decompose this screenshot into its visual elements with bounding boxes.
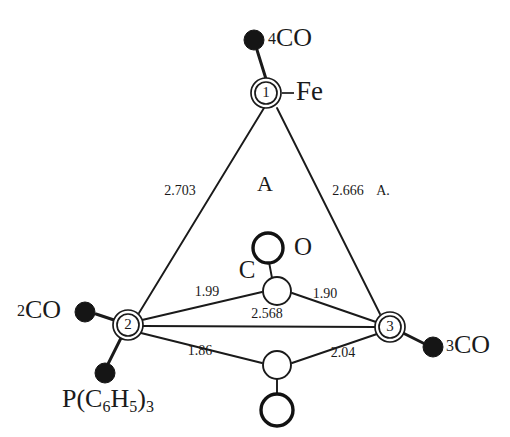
metal-vertex-2: 2 <box>113 310 143 340</box>
atom-co-3 <box>423 337 443 357</box>
bond-fe3-co3 <box>403 333 423 343</box>
metal-vertex-1: 1 <box>251 78 281 108</box>
iron-element-label-group: Fe <box>282 76 323 106</box>
co-2-group: CO <box>25 295 61 324</box>
iron-element-label: Fe <box>296 76 323 106</box>
bridging-atoms <box>253 233 293 426</box>
vertex-2-number: 2 <box>124 316 132 332</box>
bond-fe2-co2 <box>96 314 114 320</box>
bond-fe1-fe3 <box>277 108 380 314</box>
ligand-label-co-4: 4CO <box>268 23 312 52</box>
lower-bridge-bonds <box>141 333 377 396</box>
phosphine-sub-6: 6 <box>102 398 110 415</box>
phosphine-close-paren: ) <box>137 384 146 413</box>
distance-fe2-bridge-c-upper: 1.99 <box>195 284 220 299</box>
structure-canvas: 1 2 3 Fe 4CO 2CO 3CO <box>0 0 510 437</box>
atom-bridge-oxygen-upper <box>253 233 283 263</box>
metal-vertex-3: 3 <box>375 312 405 342</box>
distance-fe3-bridge-c-lower: 2.04 <box>331 345 356 360</box>
distance-unit-note: A. <box>376 183 390 198</box>
atom-co-2 <box>75 302 95 322</box>
phosphine-sub-5: 5 <box>129 398 137 415</box>
bridge-carbon-upper-label: C <box>239 256 256 283</box>
atom-phosphorus <box>95 363 115 383</box>
distance-labels: 2.703 2.666 A. 2.568 1.99 1.90 1.86 2.04 <box>164 183 390 360</box>
co-2-count: 2 <box>17 302 25 319</box>
ligand-label-co-3: 3CO <box>446 330 490 359</box>
bond-fe2-phosphine <box>108 338 121 364</box>
atom-bridge-carbon-upper <box>263 277 291 305</box>
phosphine-mid-h: H <box>110 384 129 413</box>
figure-letter-label: A <box>257 171 273 196</box>
metal-triangle-bonds <box>139 108 380 327</box>
distance-fe2-bridge-c-lower: 1.86 <box>188 343 213 358</box>
atom-bridge-oxygen-lower <box>261 394 293 426</box>
distance-fe2-fe3: 2.568 <box>251 306 283 321</box>
distance-fe3-bridge-c-upper: 1.90 <box>313 286 338 301</box>
phosphine-prefix: P(C <box>62 384 102 413</box>
molecular-structure-diagram: 1 2 3 Fe 4CO 2CO 3CO <box>0 0 510 437</box>
ligand-label-phosphine: P(C6H5)3 <box>62 384 154 415</box>
co-4-group: CO <box>276 23 312 52</box>
ligand-label-co-2: 2CO <box>17 295 61 324</box>
ligand-labels: 4CO 2CO 3CO P(C6H5)3 <box>17 23 490 415</box>
bridge-oxygen-upper-label: O <box>294 233 312 260</box>
co-3-count: 3 <box>446 337 454 354</box>
distance-fe1-fe3-group: 2.666 <box>332 183 364 198</box>
vertex-1-number: 1 <box>262 84 270 100</box>
vertex-3-number: 3 <box>386 318 394 334</box>
atom-co-4 <box>244 30 264 50</box>
bond-fe2-fe3 <box>143 326 375 327</box>
co-3-group: CO <box>454 330 490 359</box>
atom-bridge-carbon-lower <box>263 351 291 379</box>
bond-fe1-co4 <box>257 50 266 79</box>
co-4-count: 4 <box>268 30 276 47</box>
distance-fe1-fe3: 2.666 <box>332 183 364 198</box>
phosphine-sub-3: 3 <box>146 398 154 415</box>
distance-fe1-fe2: 2.703 <box>164 183 196 198</box>
